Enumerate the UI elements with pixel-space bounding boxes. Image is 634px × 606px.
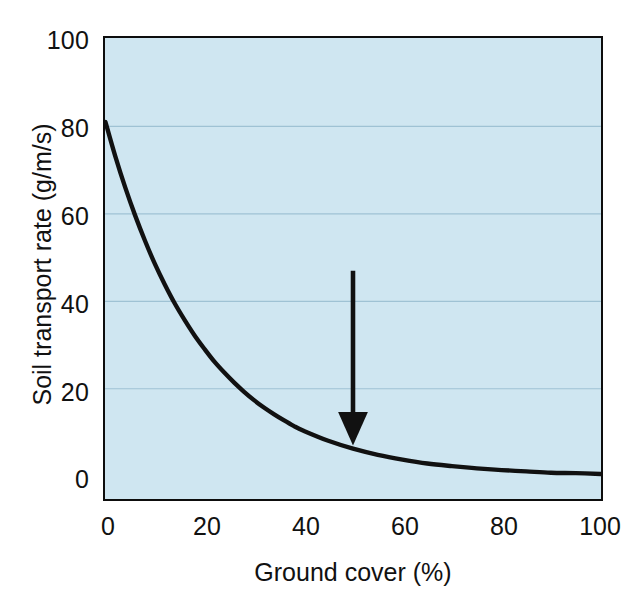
chart-figure: 100 80 60 40 20 0 0 20 40 60 80 100 Soil… bbox=[0, 0, 634, 606]
x-tick-label: 60 bbox=[391, 512, 419, 541]
y-axis-title: Soil transport rate (g/m/s) bbox=[28, 55, 57, 475]
x-axis-tick-labels: 0 20 40 60 80 100 bbox=[0, 0, 634, 606]
x-axis-title: Ground cover (%) bbox=[103, 558, 603, 587]
x-tick-label: 40 bbox=[292, 512, 320, 541]
x-tick-label: 100 bbox=[579, 512, 621, 541]
x-tick-label: 0 bbox=[101, 512, 115, 541]
x-tick-label: 20 bbox=[193, 512, 221, 541]
x-tick-label: 80 bbox=[490, 512, 518, 541]
